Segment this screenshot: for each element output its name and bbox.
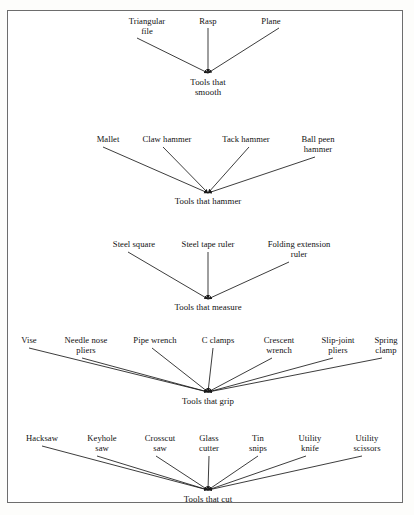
diagram-page: Tools that smoothTriangular fileRaspPlan…: [0, 0, 414, 515]
category-node-cut: Tools that cut: [184, 495, 232, 505]
leaf-node-cut-6: Utility scissors: [353, 434, 380, 453]
leaf-node-cut-2: Crosscut saw: [145, 434, 175, 453]
leaf-node-smooth-2: Plane: [261, 17, 280, 27]
leaf-node-hammer-1: Claw hammer: [143, 135, 192, 145]
leaf-node-smooth-0: Triangular file: [129, 17, 165, 36]
leaf-node-cut-5: Utility knife: [299, 434, 322, 453]
leaf-node-cut-1: Keyhole saw: [87, 434, 116, 453]
leaf-node-cut-3: Glass cutter: [199, 434, 219, 453]
leaf-node-grip-3: C clamps: [202, 336, 235, 346]
leaf-node-grip-0: Vise: [21, 336, 36, 346]
leaf-node-grip-2: Pipe wrench: [133, 336, 176, 346]
leaf-node-grip-1: Needle nose pliers: [65, 336, 108, 355]
leaf-node-grip-5: Slip-joint pliers: [322, 336, 355, 355]
leaf-node-smooth-1: Rasp: [199, 17, 216, 27]
leaf-node-measure-2: Folding extension ruler: [268, 240, 331, 259]
leaf-node-hammer-2: Tack hammer: [222, 135, 269, 145]
leaf-node-hammer-0: Mallet: [97, 135, 120, 145]
leaf-node-measure-0: Steel square: [113, 240, 155, 250]
category-node-smooth: Tools that smooth: [190, 78, 225, 97]
category-node-hammer: Tools that hammer: [175, 197, 242, 207]
leaf-node-hammer-3: Ball peen hammer: [301, 135, 334, 154]
leaf-node-cut-0: Hacksaw: [26, 434, 58, 444]
category-node-grip: Tools that grip: [182, 397, 234, 407]
leaf-node-measure-1: Steel tape ruler: [182, 240, 235, 250]
category-node-measure: Tools that measure: [174, 303, 241, 313]
leaf-node-grip-6: Spring clamp: [374, 336, 397, 355]
leaf-node-grip-4: Crescent wrench: [264, 336, 294, 355]
leaf-node-cut-4: Tin snips: [249, 434, 267, 453]
